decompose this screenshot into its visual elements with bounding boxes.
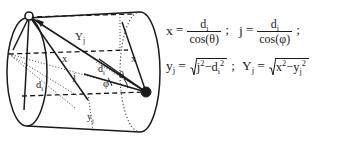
- label-theta: θ: [119, 69, 124, 80]
- equation-x-equals: =: [176, 22, 184, 37]
- label-x-upper: x: [62, 53, 68, 64]
- label-phi: φ: [103, 78, 109, 89]
- equation-yj-equals: =: [178, 58, 186, 73]
- equation-yj-radicand: j2−di2: [196, 58, 227, 77]
- label-j: j: [72, 71, 76, 82]
- equation-j-denominator: cos(φ): [257, 32, 292, 45]
- cylinder-top-edge: [27, 12, 140, 18]
- equation-panel: x= di cos(θ) ; j= di cos(φ) ; yj= j2−di2…: [166, 14, 354, 94]
- equation-yj-lhs-sub: j: [173, 65, 175, 75]
- equation-Yj-radical-sign-icon: [269, 58, 276, 77]
- cylinder-bottom-edge: [27, 126, 140, 132]
- label-yj-sub: j: [91, 117, 94, 124]
- equation-yj-term-b-sup: 2: [220, 59, 224, 68]
- equation-Yj: Yj= x2−yj2: [242, 58, 310, 77]
- line-phi-ray: [84, 74, 146, 92]
- equation-Yj-lhs-base: Y: [242, 58, 252, 73]
- label-x-right: x: [131, 53, 137, 64]
- label-di-left-sub: i: [41, 85, 43, 93]
- equation-j-lhs: j: [239, 22, 243, 37]
- equation-row-1: x= di cos(θ) ; j= di cos(φ) ;: [166, 14, 354, 48]
- equation-x: x= di cos(θ) ;: [166, 18, 233, 45]
- label-Yj-base: Y: [75, 30, 83, 42]
- label-di-right-sub: i: [103, 69, 105, 76]
- equation-row-2: yj= j2−di2 ; Yj= x2−yj2: [166, 50, 354, 84]
- label-yj: yj: [87, 111, 94, 124]
- equation-yj-minus: −: [204, 60, 211, 74]
- left-cap-ellipse: [7, 18, 47, 126]
- dotted-di-left: [9, 54, 78, 96]
- equation-j-equals: =: [246, 22, 254, 37]
- equation-Yj-radical: x2−yj2: [269, 58, 309, 77]
- equation-yj-radical: j2−di2: [190, 58, 227, 77]
- point-q-filled-circle-icon: [141, 87, 151, 97]
- point-p-open-circle-icon: [25, 12, 33, 20]
- equation-x-lhs: x: [166, 22, 173, 37]
- right-cap-front-arc: [140, 12, 160, 132]
- label-Yj-sub: j: [82, 36, 85, 45]
- line-left-rim-2: [13, 17, 29, 50]
- equation-yj-lhs: yj: [166, 58, 175, 73]
- equation-Yj-lhs: Yj: [242, 58, 254, 73]
- equation-j-numerator: di: [268, 18, 282, 31]
- equation-x-fraction: di cos(θ): [187, 18, 221, 45]
- equation-j-fraction: di cos(φ): [257, 18, 292, 45]
- equation-Yj-equals: =: [257, 58, 265, 73]
- cylinder-body: [7, 12, 160, 132]
- equation-x-terminator: ;: [225, 22, 229, 37]
- equation-yj-terminator: ;: [231, 58, 235, 73]
- equation-Yj-term-b-sup: 2: [302, 59, 306, 68]
- equation-yj-lhs-base: y: [166, 58, 173, 73]
- equation-Yj-radicand: x2−yj2: [275, 58, 309, 77]
- equation-yj-radical-sign-icon: [190, 58, 197, 77]
- figure-labels: Yj x j di di θ φ x yj: [36, 30, 137, 124]
- equation-Yj-lhs-sub: j: [252, 65, 254, 75]
- label-Yj: Yj: [75, 30, 85, 45]
- equation-j-terminator: ;: [296, 22, 300, 37]
- equation-j: j= di cos(φ) ;: [239, 18, 304, 45]
- equation-yj: yj= j2−di2 ;: [166, 58, 239, 77]
- equation-x-numerator: di: [197, 18, 211, 31]
- equation-x-denominator: cos(θ): [187, 32, 221, 45]
